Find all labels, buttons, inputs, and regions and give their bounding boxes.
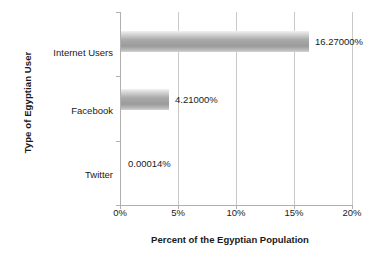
y-tick-mark-1 [116,76,120,77]
y-axis-tick-label-twitter: Twitter [20,169,113,180]
bar-internet-users[interactable] [121,31,309,52]
bar-chart: Type of Egyptian User Internet Users Fac… [0,0,392,259]
x-axis-title: Percent of the Egyptian Population [70,234,390,245]
x-tick-label-10pct: 10% [216,207,256,218]
data-label-facebook: 4.21000% [175,94,218,105]
x-tick-label-20pct: 20% [332,207,372,218]
x-tick-label-15pct: 15% [274,207,314,218]
x-tick-label-5pct: 5% [158,207,198,218]
x-axis-tick-labels: 0% 5% 10% 15% 20% [120,207,353,221]
y-tick-mark-bottom [116,205,120,206]
plot-area: 16.27000% 4.21000% 0.00014% [120,12,353,205]
y-tick-mark-top [116,12,120,13]
bar-facebook[interactable] [121,89,169,110]
data-label-twitter: 0.00014% [128,158,171,169]
y-axis-tick-label-facebook: Facebook [20,105,113,116]
y-axis-tick-label-internet-users: Internet Users [20,47,113,58]
data-label-internet-users: 16.27000% [315,36,363,47]
y-tick-mark-2 [116,141,120,142]
x-tick-label-0pct: 0% [100,207,140,218]
y-axis-tick-labels: Internet Users Facebook Twitter [20,12,113,205]
